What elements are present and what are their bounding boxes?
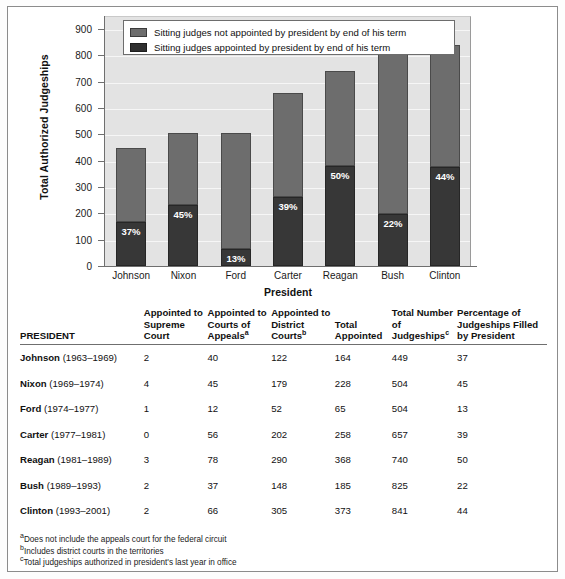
legend-swatch-appointed: [130, 43, 147, 52]
president-name: Bush: [20, 480, 44, 491]
cell-total-appointed: 164: [335, 345, 392, 371]
header-total-appointed: Total Appointed: [335, 307, 392, 345]
table-row[interactable]: Bush (1989–1993)23714818582522: [20, 473, 547, 499]
y-tick-mark: [98, 187, 104, 188]
y-tick-mark: [98, 29, 104, 30]
header-total-judgeships-text: Total Number of Judgeships: [392, 307, 453, 341]
y-tick-label: 400: [58, 155, 92, 166]
cell-total-judgeships: 449: [392, 345, 457, 371]
y-tick-mark: [98, 213, 104, 214]
y-tick-mark: [98, 266, 104, 267]
cell-total-judgeships: 657: [392, 422, 457, 448]
chart-legend: Sitting judges not appointed by presiden…: [123, 20, 455, 55]
bar-segment-not-appointed[interactable]: [221, 133, 251, 248]
cell-president: Clinton (1993–2001): [20, 498, 144, 524]
stacked-bar-chart: Total Authorized Judgeships 010020030040…: [8, 7, 559, 301]
footnote-b: bIncludes district courts in the territo…: [20, 546, 520, 558]
cell-supreme-court: 2: [144, 473, 208, 499]
table-row[interactable]: Johnson (1963–1969)24012216444937: [20, 345, 547, 371]
cell-total-judgeships: 841: [392, 498, 457, 524]
figure-frame: Total Authorized Judgeships 010020030040…: [7, 6, 558, 572]
cell-percentage: 37: [457, 345, 547, 371]
header-courts-of-appeals: Appointed to Courts of Appealsa: [207, 307, 271, 345]
cell-total-appointed: 258: [335, 422, 392, 448]
bar-value-label: 37%: [116, 226, 146, 237]
footnotes-block: aDoes not include the appeals court for …: [20, 534, 520, 569]
table-body: Johnson (1963–1969)24012216444937Nixon (…: [20, 345, 547, 524]
bar-value-label: 50%: [325, 170, 355, 181]
footnote-marker-b: b: [302, 329, 306, 336]
cell-district-courts: 52: [271, 396, 335, 422]
cell-supreme-court: 3: [144, 447, 208, 473]
bar-segment-not-appointed[interactable]: [116, 148, 146, 222]
cell-district-courts: 122: [271, 345, 335, 371]
cell-total-judgeships: 825: [392, 473, 457, 499]
y-tick-label: 0: [58, 261, 92, 272]
legend-label-not-appointed: Sitting judges not appointed by presiden…: [154, 27, 406, 38]
cell-courts-of-appeals: 40: [207, 345, 271, 371]
cell-supreme-court: 2: [144, 498, 208, 524]
table-row[interactable]: Carter (1977–1981)05620225865739: [20, 422, 547, 448]
legend-swatch-not-appointed: [130, 28, 147, 37]
table-row[interactable]: Clinton (1993–2001)26630537384144: [20, 498, 547, 524]
cell-district-courts: 305: [271, 498, 335, 524]
president-years: (1981–1989): [55, 454, 112, 465]
president-years: (1974–1977): [41, 403, 98, 414]
bar-value-label: 13%: [221, 253, 251, 264]
bar-segment-not-appointed[interactable]: [168, 133, 198, 204]
cell-president: Reagan (1981–1989): [20, 447, 144, 473]
cell-total-judgeships: 504: [392, 396, 457, 422]
bar-value-label: 39%: [273, 201, 303, 212]
cell-supreme-court: 2: [144, 345, 208, 371]
table-row[interactable]: Ford (1974–1977)112526550413: [20, 396, 547, 422]
bar-segment-not-appointed[interactable]: [325, 71, 355, 166]
legend-item: Sitting judges not appointed by presiden…: [130, 25, 448, 39]
x-tick-label-clinton: Clinton: [410, 270, 480, 281]
cell-courts-of-appeals: 12: [207, 396, 271, 422]
cell-district-courts: 202: [271, 422, 335, 448]
y-tick-label: 500: [58, 129, 92, 140]
cell-courts-of-appeals: 66: [207, 498, 271, 524]
cell-total-judgeships: 740: [392, 447, 457, 473]
y-tick-label: 300: [58, 182, 92, 193]
cell-supreme-court: 4: [144, 371, 208, 397]
x-axis-line: [98, 266, 477, 267]
footnote-a: aDoes not include the appeals court for …: [20, 534, 520, 546]
table-head: PRESIDENT Appointed to Supreme Court App…: [20, 307, 547, 345]
bar-value-label: 22%: [378, 218, 408, 229]
cell-courts-of-appeals: 37: [207, 473, 271, 499]
bar-segment-not-appointed[interactable]: [378, 49, 408, 215]
cell-president: Carter (1977–1981): [20, 422, 144, 448]
header-total-judgeships: Total Number of Judgeshipsc: [392, 307, 457, 345]
president-years: (1977–1981): [48, 429, 105, 440]
table-row[interactable]: Nixon (1969–1974)44517922850445: [20, 371, 547, 397]
table-row[interactable]: Reagan (1981–1989)37829036874050: [20, 447, 547, 473]
bar-segment-appointed[interactable]: [325, 166, 355, 266]
y-tick-mark: [98, 108, 104, 109]
cell-courts-of-appeals: 56: [207, 422, 271, 448]
cell-total-appointed: 368: [335, 447, 392, 473]
president-name: Reagan: [20, 454, 55, 465]
header-supreme-court: Appointed to Supreme Court: [144, 307, 208, 345]
bar-segment-not-appointed[interactable]: [430, 45, 460, 168]
president-name: Carter: [20, 429, 48, 440]
cell-supreme-court: 0: [144, 422, 208, 448]
president-name: Clinton: [20, 505, 53, 516]
cell-district-courts: 148: [271, 473, 335, 499]
y-tick-mark: [98, 240, 104, 241]
cell-courts-of-appeals: 78: [207, 447, 271, 473]
judgeships-table: PRESIDENT Appointed to Supreme Court App…: [20, 307, 547, 524]
table-header-row: PRESIDENT Appointed to Supreme Court App…: [20, 307, 547, 345]
cell-percentage: 39: [457, 422, 547, 448]
bar-value-label: 45%: [168, 209, 198, 220]
cell-percentage: 22: [457, 473, 547, 499]
president-name: Ford: [20, 403, 41, 414]
bar-segment-not-appointed[interactable]: [273, 93, 303, 197]
cell-percentage: 13: [457, 396, 547, 422]
cell-courts-of-appeals: 45: [207, 371, 271, 397]
y-axis-line: [104, 16, 105, 267]
cell-president: Ford (1974–1977): [20, 396, 144, 422]
cell-percentage: 45: [457, 371, 547, 397]
legend-label-appointed: Sitting judges appointed by president by…: [154, 42, 390, 53]
cell-percentage: 44: [457, 498, 547, 524]
